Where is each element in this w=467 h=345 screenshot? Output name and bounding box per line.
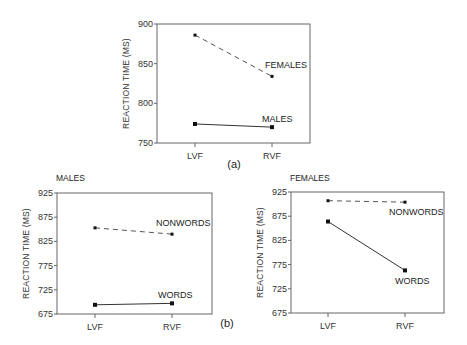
y-tick-label: 675 [38,309,53,319]
y-tick-label: 825 [38,236,53,246]
data-point-marker [403,268,407,272]
data-point-marker [326,220,330,224]
data-point-marker [170,301,174,305]
x-tick-label-rvf: RVF [263,151,281,161]
y-tick-label: 925 [38,188,53,198]
series-line [195,35,272,76]
data-point-marker [327,199,330,202]
x-tick-label-rvf: RVF [396,321,414,331]
data-point-marker [193,122,197,126]
data-point-marker [93,303,97,307]
data-point-marker [171,233,174,236]
series-label: WORDS [395,276,430,286]
y-tick-label: 875 [272,211,287,221]
caption-b-label: (b) [220,317,233,329]
series-label: MALES [262,114,293,124]
series-label: FEMALES [265,60,307,70]
series-nonwords: NONWORDS [94,218,211,236]
y-tick-label: 675 [272,308,287,318]
y-tick-label: 775 [272,260,287,270]
data-point-marker [404,201,407,204]
x-tick-label-lvf: LVF [187,151,203,161]
chart-panel-a: 750800850900LVFRVFREACTION TIME (MS)FEMA… [121,19,310,161]
y-tick-label: 800 [138,98,153,108]
series-label: WORDS [158,290,193,300]
data-point-marker [270,125,274,129]
series-line [195,124,272,127]
data-point-marker [194,34,197,37]
y-axis-title: REACTION TIME (MS) [255,207,265,298]
series-words: WORDS [326,220,430,287]
y-axis-title: REACTION TIME (MS) [21,208,31,299]
panel-title: MALES [56,173,85,183]
series-males: MALES [193,114,293,129]
data-point-marker [94,226,97,229]
y-tick-label: 925 [272,187,287,197]
series-words: WORDS [93,290,193,306]
chart-panel-b-males: 675725775825875925LVFRVFREACTION TIME (M… [21,173,212,332]
y-tick-label: 850 [138,59,153,69]
series-females: FEMALES [194,34,308,78]
chart-panel-b-females: 675725775825875925LVFRVFREACTION TIME (M… [255,173,444,331]
x-tick-label-rvf: RVF [163,322,181,332]
y-tick-label: 725 [38,285,53,295]
series-nonwords: NONWORDS [327,199,444,217]
caption-a-label: (a) [227,158,240,170]
series-line [95,303,172,304]
panel-title: FEMALES [290,173,330,183]
y-tick-label: 725 [272,284,287,294]
figure-canvas: 750800850900LVFRVFREACTION TIME (MS)FEMA… [0,0,467,345]
series-line [328,201,405,202]
y-tick-label: 750 [138,138,153,148]
x-tick-label-lvf: LVF [87,322,103,332]
y-tick-label: 775 [38,261,53,271]
data-point-marker [271,75,274,78]
y-tick-label: 825 [272,235,287,245]
series-label: NONWORDS [156,218,211,228]
y-tick-label: 900 [138,19,153,29]
x-tick-label-lvf: LVF [320,321,336,331]
series-label: NONWORDS [389,207,444,217]
series-line [328,222,405,271]
y-tick-label: 875 [38,212,53,222]
series-line [95,228,172,234]
y-axis-title: REACTION TIME (MS) [121,38,131,129]
